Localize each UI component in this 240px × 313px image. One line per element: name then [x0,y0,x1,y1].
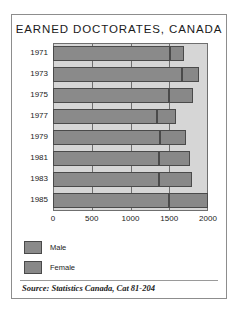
bar-segment-female [182,67,199,82]
y-axis-tick-label: 1973 [18,67,48,82]
x-axis: 0500100015002000 [53,211,208,227]
x-axis-tick-label: 0 [51,214,55,223]
x-axis-tick-label: 1000 [122,214,140,223]
y-axis-tick-label: 1983 [18,172,48,187]
bar-row: 1983 [53,172,208,187]
bar-segment-female [157,109,176,124]
y-axis-tick-label: 1981 [18,151,48,166]
bar-segment-male [53,172,159,187]
bar-segment-male [53,67,182,82]
chart-legend: MaleFemale [24,239,144,279]
bar-segment-male [53,151,159,166]
x-axis-tick-label: 2000 [199,214,217,223]
legend-label: Male [50,243,66,252]
bar-segment-male [53,46,170,61]
legend-label: Female [50,263,75,272]
legend-swatch [24,241,42,254]
chart-figure: EARNED DOCTORATES, CANADA 19711973197519… [11,14,227,299]
bar-segment-female [160,130,186,145]
bar-row: 1985 [53,193,208,208]
legend-item: Female [24,259,144,276]
chart-title: EARNED DOCTORATES, CANADA [12,23,226,35]
bar-segment-female [169,88,192,103]
bar-row: 1973 [53,67,208,82]
bar-segment-female [159,151,190,166]
bar-segment-female [169,193,208,208]
bar-row: 1977 [53,109,208,124]
y-axis-tick-label: 1971 [18,46,48,61]
y-axis-tick-label: 1977 [18,109,48,124]
source-divider [20,280,218,281]
bar-row: 1979 [53,130,208,145]
y-axis-tick-label: 1979 [18,130,48,145]
bar-segment-female [170,46,184,61]
y-axis-tick-label: 1985 [18,193,48,208]
y-axis-tick-label: 1975 [18,88,48,103]
bar-segment-male [53,88,169,103]
legend-item: Male [24,239,144,256]
bar-segment-male [53,193,169,208]
bar-row: 1971 [53,46,208,61]
bar-segment-male [53,109,157,124]
bar-series-container: 19711973197519771979198119831985 [53,43,208,211]
bar-row: 1981 [53,151,208,166]
source-note: Source: Statistics Canada, Cat 81-204 [22,283,155,293]
plot-wrapper: 19711973197519771979198119831985 [53,43,208,211]
x-axis-tick-label: 500 [85,214,98,223]
legend-swatch [24,261,42,274]
bar-row: 1975 [53,88,208,103]
x-axis-tick-label: 1500 [160,214,178,223]
bar-segment-female [159,172,192,187]
bar-segment-male [53,130,160,145]
